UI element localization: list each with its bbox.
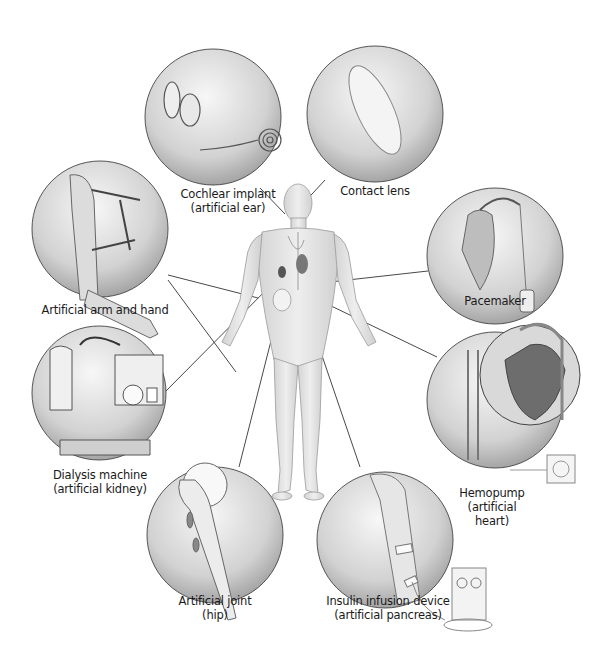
label-hemopump: Hemopump (artificial heart) (452, 486, 532, 528)
label-line: Dialysis machine (40, 468, 160, 482)
label-pacemaker: Pacemaker (455, 294, 535, 308)
label-line: Contact lens (330, 184, 420, 198)
label-line: Artificial arm and hand (30, 303, 180, 317)
leader-line-arm-2 (168, 280, 236, 372)
left-foot (272, 492, 292, 500)
label-line: (artificial kidney) (40, 482, 160, 496)
kidney-organ (278, 266, 286, 278)
label-dialysis-machine: Dialysis machine (artificial kidney) (40, 468, 160, 496)
label-line: Hemopump (452, 486, 532, 500)
label-insulin-infusion-device: Insulin infusion device (artificial panc… (318, 594, 458, 622)
label-cochlear-implant: Cochlear implant (artificial ear) (168, 187, 288, 215)
label-line: (artificial pancreas) (318, 608, 458, 622)
right-foot (304, 492, 324, 500)
artificial-organs-diagram: Cochlear implant (artificial ear) Contac… (0, 0, 610, 650)
diagram-artwork (0, 0, 610, 650)
circle-artificial-arm (32, 161, 168, 297)
label-line: (artificial (452, 500, 532, 514)
leader-line-hip (239, 325, 275, 467)
left-leg (274, 358, 298, 494)
pelvis-hip (273, 289, 291, 311)
label-line: (hip) (165, 608, 265, 622)
human-body-figure (222, 184, 376, 500)
heart-organ (296, 254, 308, 274)
label-line: heart) (452, 514, 532, 528)
label-line: Insulin infusion device (318, 594, 458, 608)
head (284, 184, 312, 222)
right-arm (334, 234, 376, 346)
label-artificial-arm: Artificial arm and hand (30, 303, 180, 317)
label-line: (artificial ear) (168, 201, 288, 215)
label-line: Cochlear implant (168, 187, 288, 201)
right-leg (298, 358, 322, 494)
label-contact-lens: Contact lens (330, 184, 420, 198)
label-artificial-joint: Artificial joint (hip) (165, 594, 265, 622)
label-line: Pacemaker (455, 294, 535, 308)
circle-cochlear-implant (145, 49, 281, 185)
label-line: Artificial joint (165, 594, 265, 608)
